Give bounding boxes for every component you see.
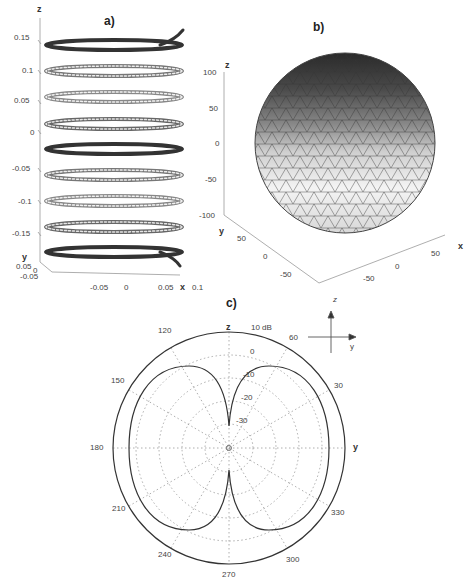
- radial-label: 0: [250, 347, 254, 356]
- sphere-plot: [195, 0, 475, 310]
- z-tick: 0: [30, 128, 34, 137]
- z-tick: -0.15: [12, 229, 30, 238]
- inset-axis-z: z: [333, 295, 337, 304]
- angle-label-300: 300: [286, 555, 299, 564]
- y-tick: -50: [280, 270, 292, 279]
- radial-label: -20: [241, 393, 253, 402]
- angle-label-270: 270: [222, 570, 235, 579]
- angle-label-30: 30: [334, 381, 343, 390]
- angle-label-210: 210: [112, 504, 125, 513]
- z-tick: 0.05: [14, 96, 30, 105]
- radial-label: 10 dB: [251, 323, 272, 332]
- axis-label-y: y: [219, 226, 224, 236]
- angle-label-150: 150: [111, 376, 124, 385]
- z-tick: 0: [215, 139, 219, 148]
- z-tick: 100: [203, 68, 216, 77]
- y-tick: 0.05: [16, 262, 32, 271]
- z-tick: 0.15: [14, 33, 30, 42]
- x-tick: 0: [395, 262, 399, 271]
- angle-label-60: 60: [289, 333, 298, 342]
- panel-c-polar: c) z 10 dB 0 -10 -20 -30 120 60 150 30 1…: [0, 290, 475, 583]
- inset-axis-y: y: [350, 342, 354, 351]
- polar-right-label: y: [353, 442, 358, 452]
- z-tick: -0.1: [18, 197, 32, 206]
- axis-label-x: x: [458, 241, 463, 251]
- panel-b-sphere: b) z 100 50 0 -50 -100 y 50 0 -50 -50 0 …: [195, 0, 475, 310]
- angle-label-240: 240: [158, 550, 171, 559]
- x-tick: 50: [431, 249, 440, 258]
- panel-c-title: c): [226, 296, 237, 310]
- z-tick: 50: [209, 104, 218, 113]
- y-tick: -0.05: [20, 272, 38, 281]
- z-tick: -100: [199, 211, 215, 220]
- angle-label-330: 330: [331, 508, 344, 517]
- angle-label-120: 120: [158, 326, 171, 335]
- axis-label-z: z: [37, 4, 42, 14]
- z-tick: -0.05: [12, 164, 30, 173]
- polar-plot: [0, 290, 475, 583]
- axis-label-y: y: [22, 252, 27, 262]
- panel-a-helix: a) z 0.15 0.1 0.05 0 -0.05 -0.1 -0.15 y …: [0, 0, 200, 300]
- z-tick: 0.1: [22, 66, 33, 75]
- y-tick: 0: [263, 252, 267, 261]
- panel-b-title: b): [313, 20, 324, 34]
- radial-label: -30: [236, 416, 248, 425]
- y-tick: 50: [237, 234, 246, 243]
- axis-label-z: z: [225, 60, 230, 70]
- x-tick: -50: [363, 274, 375, 283]
- panel-a-title: a): [104, 14, 115, 28]
- radial-label: -10: [243, 370, 255, 379]
- helix-plot: [0, 0, 200, 300]
- z-tick: -50: [205, 175, 217, 184]
- angle-label-180: 180: [90, 443, 103, 452]
- polar-top-label: z: [226, 322, 231, 332]
